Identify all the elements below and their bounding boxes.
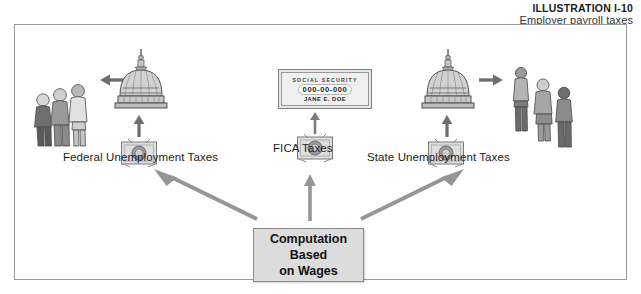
label-state-unemployment-taxes: State Unemployment Taxes (367, 151, 510, 163)
computation-based-on-wages-box: Computation Based on Wages (253, 228, 364, 282)
illustration-title: ILLUSTRATION I-10 (520, 2, 633, 14)
illustration-panel: Federal Unemployment Taxes SOCIAL SECURI… (14, 24, 627, 280)
people-group-icon (27, 73, 97, 148)
arrow-up-right-icon (357, 167, 467, 223)
computation-box-line1: Computation (270, 231, 347, 247)
arrow-up-icon (439, 114, 455, 138)
arrow-up-left-icon (151, 167, 261, 223)
label-fica-taxes: FICA Taxes (273, 142, 333, 154)
capitol-dome-icon (112, 48, 170, 110)
computation-box-line2: Based (270, 247, 347, 263)
social-security-card-name: JANE E. DOE (304, 96, 346, 102)
computation-box-line3: on Wages (270, 263, 347, 279)
social-security-card-heading: SOCIAL SECURITY (292, 77, 357, 83)
arrow-up-icon (302, 172, 318, 222)
label-federal-unemployment-taxes: Federal Unemployment Taxes (63, 151, 218, 163)
illustration-header: ILLUSTRATION I-10 Employer payroll taxes (520, 2, 633, 27)
arrow-right-icon (478, 73, 504, 87)
social-security-card-number: 000-00-000 (298, 84, 353, 95)
people-group-icon (507, 61, 579, 149)
arrow-up-icon (131, 114, 147, 138)
social-security-card: SOCIAL SECURITY 000-00-000 JANE E. DOE (278, 69, 372, 109)
capitol-dome-icon (419, 48, 477, 110)
arrow-up-icon (308, 111, 322, 135)
